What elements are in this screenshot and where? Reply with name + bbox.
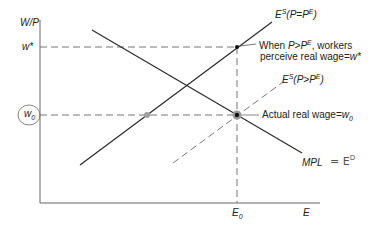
perceive-annotation-line1: When P>PE, workers [259, 39, 352, 51]
actual-wage-annotation: Actual real wage=w0 [262, 110, 353, 122]
es-equal-prefix: E [275, 9, 282, 20]
actual-sub: 0 [349, 115, 353, 122]
perceive2-b: w* [350, 51, 361, 62]
actual-a: Actual real wage= [262, 109, 342, 120]
w0-tick-label: w0 [24, 109, 35, 121]
e0-base: E [232, 207, 239, 218]
perceive-annotation-line2: perceive real wage=w* [260, 52, 361, 62]
es-greater-cond-end: ) [321, 74, 324, 85]
perceive2-a: perceive real wage= [260, 51, 350, 62]
y-axis-label: W/P [20, 18, 39, 28]
perceived-wage-point [235, 45, 239, 49]
w-star-tick-label: w* [22, 42, 33, 52]
supply-w0-marker [144, 112, 150, 118]
handwritten-note: = ED [330, 155, 355, 167]
e0-sub: 0 [239, 213, 243, 220]
equilibrium-point [235, 113, 239, 117]
es-equal-cond-end: ) [314, 9, 317, 20]
e0-tick-label: E0 [232, 208, 243, 220]
actual-b: w [342, 109, 349, 120]
perceive-c: , workers [312, 40, 353, 51]
es-greater-cond: (P>P [293, 74, 316, 85]
es-equal-label: ES(P=PE) [275, 8, 317, 20]
w0-tick-sub: 0 [31, 114, 35, 121]
es-equal-cond: (P=P [286, 9, 309, 20]
handwritten-note-sup: D [350, 154, 355, 162]
labor-supply-curve-expected [80, 22, 272, 165]
es-greater-label: ES(P>PE) [282, 73, 324, 85]
x-axis-label: E [303, 208, 310, 218]
es-greater-prefix: E [282, 74, 289, 85]
handwritten-note-text: = E [330, 155, 350, 168]
perceive-a: When [259, 40, 288, 51]
mpl-label: MPL [302, 158, 323, 168]
labor-supply-curve-shifted [173, 82, 283, 163]
perceive-b: P>P [288, 40, 307, 51]
